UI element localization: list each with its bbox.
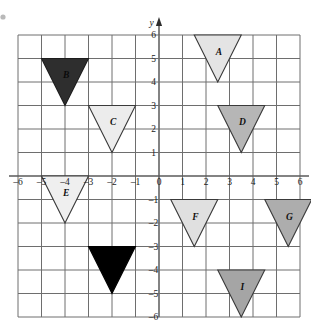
y-tick-label-11: –5 [148, 289, 159, 299]
x-tick-label-7: 1 [180, 177, 185, 187]
x-tick-label-8: 2 [204, 177, 209, 187]
y-tick-label-0: 6 [151, 30, 156, 40]
y-tick-label-3: 3 [151, 101, 156, 111]
stray-marks [0, 14, 5, 19]
x-tick-label-12: 6 [298, 177, 303, 187]
y-tick-label-9: –3 [148, 242, 159, 252]
triangle-label-c: C [110, 117, 117, 127]
x-tick-label-10: 4 [251, 177, 256, 187]
triangle-label-e: E [62, 188, 69, 198]
y-tick-label-1: 5 [151, 54, 156, 64]
x-tick-label-11: 5 [274, 177, 279, 187]
y-tick-label-10: –4 [148, 265, 159, 275]
x-tick-label-0: –6 [12, 177, 23, 187]
figure-canvas: –6–5–4–3–2–10123456654321–1–2–3–4–5–6 AB… [0, 0, 311, 332]
triangle-label-f: F [191, 212, 199, 222]
y-tick-label-8: –2 [148, 218, 159, 228]
stray-mark-left [0, 14, 5, 19]
y-tick-label-12: –6 [148, 312, 159, 322]
y-tick-label-7: –1 [148, 195, 159, 205]
triangle-label-b: B [62, 70, 69, 80]
x-tick-label-9: 3 [227, 177, 232, 187]
triangle-label-i: I [240, 282, 245, 292]
axis-name-labels: y [148, 18, 154, 28]
x-tick-label-4: –2 [106, 177, 117, 187]
x-tick-label-3: –3 [83, 177, 94, 187]
y-axis-name-label: y [148, 18, 154, 28]
y-tick-label-2: 4 [151, 77, 156, 87]
coordinate-plane: –6–5–4–3–2–10123456654321–1–2–3–4–5–6 AB… [0, 0, 311, 332]
triangle-label-d: D [238, 117, 246, 127]
triangle-label-g: G [286, 212, 293, 222]
triangle-label-a: A [215, 47, 222, 57]
y-tick-label-5: 1 [151, 148, 156, 158]
x-tick-label-6: 0 [157, 177, 162, 187]
x-tick-label-5: –1 [130, 177, 141, 187]
x-tick-label-1: –5 [36, 177, 47, 187]
y-tick-label-4: 2 [151, 124, 156, 134]
y-axis-arrow-icon [156, 17, 162, 26]
x-tick-label-2: –4 [59, 177, 70, 187]
